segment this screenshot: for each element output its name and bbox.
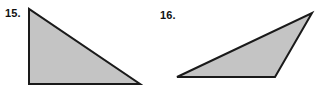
problem-number-16: 16. [160,10,176,21]
triangle-shape-16 [177,13,312,77]
geometry-figure-panel: 15. 16. [0,0,322,97]
problem-number-15: 15. [5,8,21,19]
triangle-shape-15 [29,9,140,84]
